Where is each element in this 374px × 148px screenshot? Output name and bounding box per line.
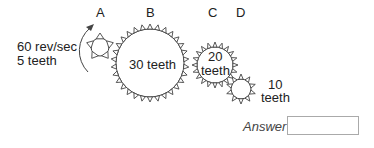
gear-a-label: A — [96, 6, 105, 20]
gear-d-label: D — [236, 6, 245, 20]
input-speed-label: 60 rev/sec — [17, 40, 77, 54]
gear-d-teeth-label: teeth — [261, 91, 290, 105]
gear-c-teeth-label: teeth — [201, 64, 230, 78]
gear-c-teeth-number: 20 — [208, 50, 222, 64]
answer-label: Answer — [243, 119, 286, 134]
gear-b-label: B — [146, 6, 155, 20]
gear-b-teeth-label: 30 teeth — [129, 58, 176, 72]
answer-input[interactable] — [287, 116, 359, 135]
gear-c-label: C — [208, 6, 217, 20]
gear-a-teeth-label: 5 teeth — [17, 54, 57, 68]
